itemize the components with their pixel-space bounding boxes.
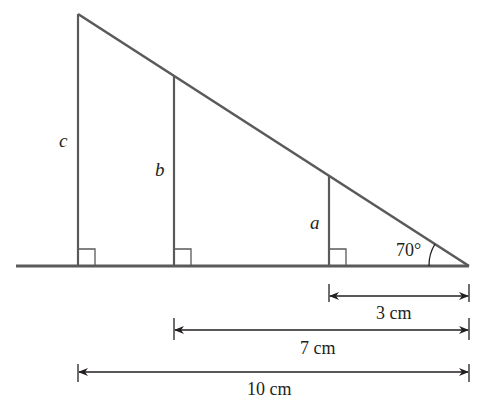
- hypotenuse: [78, 14, 469, 266]
- right-angle-marker-c: [78, 249, 95, 266]
- right-angle-marker-b: [174, 249, 191, 266]
- triangle-diagram: [0, 0, 481, 408]
- label-b: b: [155, 159, 165, 181]
- dimension-label-3cm: 3 cm: [376, 303, 412, 324]
- right-angle-marker-a: [329, 249, 346, 266]
- dimension-label-7cm: 7 cm: [300, 338, 336, 359]
- dimension-label-10cm: 10 cm: [247, 379, 292, 400]
- angle-label: 70°: [396, 240, 421, 261]
- angle-arc: [429, 244, 435, 266]
- label-a: a: [310, 212, 320, 234]
- label-c: c: [59, 130, 67, 152]
